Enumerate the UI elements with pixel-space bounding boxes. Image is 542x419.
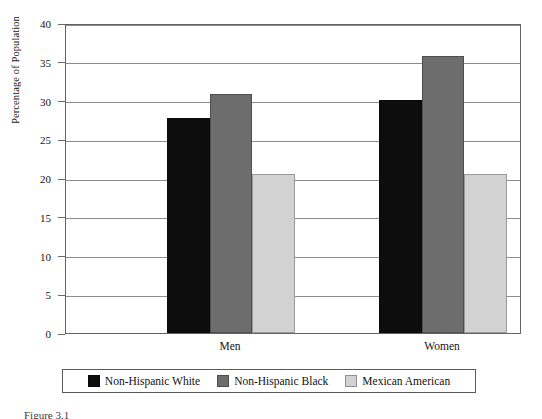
- y-tick-mark: [58, 217, 65, 218]
- bar-men-series-0: [167, 118, 210, 333]
- bar-men-series-1: [210, 94, 253, 333]
- y-axis-title: Percentage of Population: [10, 0, 26, 124]
- x-axis-label-women: Women: [424, 340, 459, 352]
- y-tick-label: 0: [25, 328, 51, 340]
- y-tick-label: 15: [25, 212, 51, 224]
- y-tick-mark: [58, 62, 65, 63]
- legend-swatch-dark-grey: [217, 375, 229, 387]
- y-tick-mark: [58, 334, 65, 335]
- plot-inner: [66, 25, 520, 333]
- y-tick-mark: [58, 256, 65, 257]
- y-tick-label: 30: [25, 96, 51, 108]
- legend-item-2: Mexican American: [345, 375, 450, 387]
- y-tick-label: 25: [25, 134, 51, 146]
- legend-label: Non-Hispanic Black: [234, 375, 328, 387]
- bar-men-series-2: [252, 174, 295, 333]
- figure-caption: Figure 3.1: [24, 410, 144, 419]
- y-tick-mark: [58, 101, 65, 102]
- legend-swatch-black: [88, 375, 100, 387]
- chart-legend: Non-Hispanic WhiteNon-Hispanic BlackMexi…: [62, 369, 476, 393]
- x-axis-label-men: Men: [219, 340, 240, 352]
- legend-item-0: Non-Hispanic White: [88, 375, 200, 387]
- figure-container: Percentage of Population 051015202530354…: [0, 0, 542, 419]
- y-tick-label: 20: [25, 173, 51, 185]
- y-tick-mark: [58, 24, 65, 25]
- y-tick-mark: [58, 179, 65, 180]
- bar-women-series-0: [379, 100, 422, 333]
- y-tick-label: 5: [25, 289, 51, 301]
- plot-area: [65, 24, 521, 334]
- bar-women-series-2: [464, 174, 507, 333]
- gridline: [66, 25, 520, 26]
- legend-label: Non-Hispanic White: [105, 375, 200, 387]
- legend-swatch-light-grey: [345, 375, 357, 387]
- legend-label: Mexican American: [362, 375, 450, 387]
- y-tick-mark: [58, 140, 65, 141]
- y-tick-label: 10: [25, 251, 51, 263]
- y-tick-label: 40: [25, 18, 51, 30]
- legend-item-1: Non-Hispanic Black: [217, 375, 328, 387]
- y-tick-label: 35: [25, 57, 51, 69]
- y-tick-mark: [58, 295, 65, 296]
- bar-women-series-1: [422, 56, 465, 333]
